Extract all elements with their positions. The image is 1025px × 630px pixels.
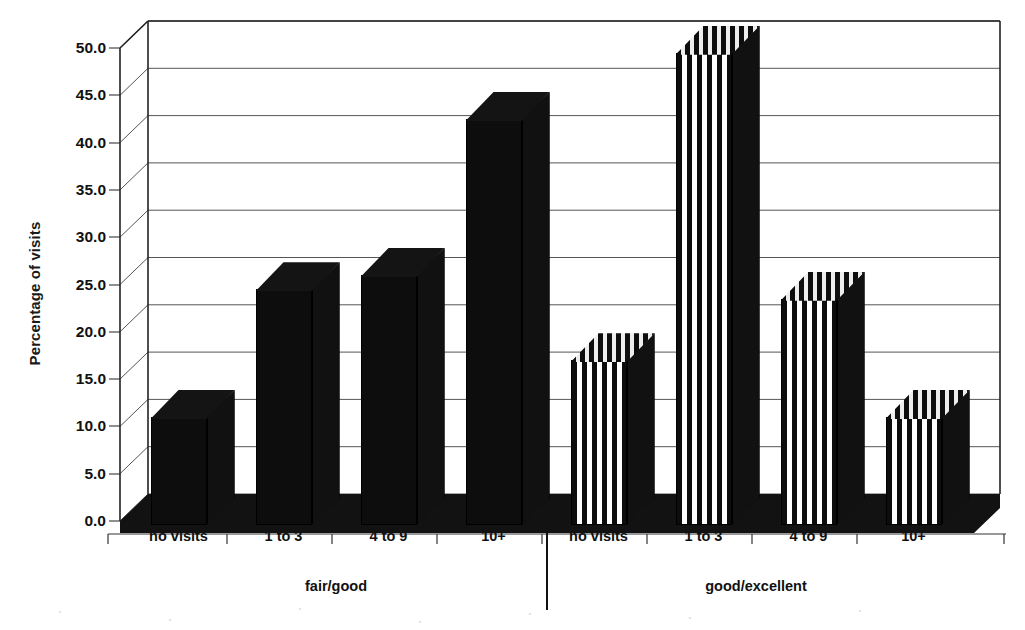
x-tick-label: no visits	[569, 528, 628, 544]
x-tick-label: 1 to 3	[685, 528, 723, 544]
group-divider	[546, 512, 548, 610]
bar-chart: Percentage of visits 0.05.010.015.020.02…	[0, 0, 1025, 630]
x-tick-label: 4 to 9	[370, 528, 408, 544]
x-tick-label: no visits	[149, 528, 208, 544]
x-tick-label: 1 to 3	[265, 528, 303, 544]
x-axis-labels: no visits1 to 34 to 910+no visits1 to 34…	[0, 0, 1025, 630]
scan-noise	[0, 600, 1025, 630]
x-tick-label: 10+	[901, 528, 926, 544]
x-tick-label: 10+	[481, 528, 506, 544]
group-label-good-excellent: good/excellent	[705, 578, 807, 594]
x-tick-label: 4 to 9	[790, 528, 828, 544]
group-label-fair-good: fair/good	[305, 578, 367, 594]
